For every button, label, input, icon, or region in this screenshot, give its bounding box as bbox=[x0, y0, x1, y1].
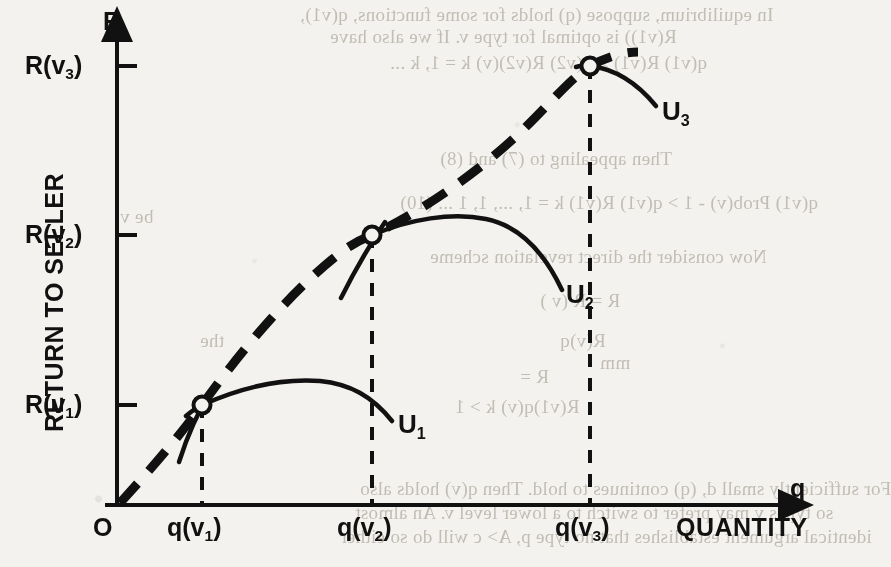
x-tick-qv2-sub: 2 bbox=[375, 527, 384, 544]
x-tick-label-qv2: q(v2) bbox=[337, 515, 391, 540]
x-axis-symbol: q bbox=[790, 476, 805, 501]
marker-qv3 bbox=[582, 58, 599, 75]
y-tick-rv2-main: R(v bbox=[25, 220, 65, 248]
y-tick-label-rv3: R(v3) bbox=[25, 53, 82, 78]
y-tick-label-rv2: R(v2) bbox=[25, 222, 82, 247]
y-tick-rv1-main: R(v bbox=[25, 390, 65, 418]
curve-u1-main: U bbox=[398, 409, 417, 439]
y-tick-marks bbox=[117, 66, 137, 405]
curve-u1-sub: 1 bbox=[417, 424, 426, 442]
droplines bbox=[202, 66, 590, 503]
x-axis-title: QUANTITY bbox=[676, 515, 808, 540]
x-tick-qv2-main: q(v bbox=[337, 513, 375, 541]
y-tick-rv3-tail: ) bbox=[74, 51, 82, 79]
y-tick-rv1-tail: ) bbox=[74, 390, 82, 418]
curve-u3-main: U bbox=[662, 96, 681, 126]
x-tick-qv1-sub: 1 bbox=[205, 527, 214, 544]
y-tick-rv3-main: R(v bbox=[25, 51, 65, 79]
marker-qv1 bbox=[194, 397, 211, 414]
y-tick-rv2-tail: ) bbox=[74, 220, 82, 248]
curve-u3-sub: 3 bbox=[681, 111, 690, 129]
y-axis-symbol: R bbox=[103, 9, 121, 34]
curve-u2-sub: 2 bbox=[585, 294, 594, 312]
envelope-curve bbox=[120, 52, 638, 503]
x-tick-qv1-main: q(v bbox=[167, 513, 205, 541]
y-tick-label-rv1: R(v1) bbox=[25, 392, 82, 417]
curve-label-u2: U2 bbox=[566, 281, 594, 307]
curve-u2-main: U bbox=[566, 279, 585, 309]
x-tick-qv2-tail: ) bbox=[383, 513, 391, 541]
x-tick-qv1-tail: ) bbox=[213, 513, 221, 541]
origin-label: O bbox=[93, 515, 112, 540]
curve-label-u3: U3 bbox=[662, 98, 690, 124]
y-tick-rv2-sub: 2 bbox=[65, 234, 74, 251]
y-tick-rv3-sub: 3 bbox=[65, 65, 74, 82]
x-tick-label-qv1: q(v1) bbox=[167, 515, 221, 540]
x-tick-label-qv3: q(v3) bbox=[555, 515, 609, 540]
curve-label-u1: U1 bbox=[398, 411, 426, 437]
marker-qv2 bbox=[364, 227, 381, 244]
x-tick-qv3-tail: ) bbox=[601, 513, 609, 541]
x-tick-qv3-main: q(v bbox=[555, 513, 593, 541]
y-tick-rv1-sub: 1 bbox=[65, 404, 74, 421]
curve-u2 bbox=[356, 216, 562, 290]
x-tick-qv3-sub: 3 bbox=[593, 527, 602, 544]
